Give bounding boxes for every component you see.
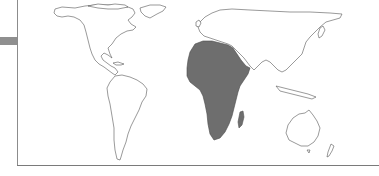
region-new-zealand[interactable] bbox=[327, 144, 334, 157]
region-south-america[interactable] bbox=[107, 75, 147, 160]
world-map bbox=[0, 0, 379, 176]
region-caribbean[interactable] bbox=[113, 62, 124, 65]
region-southeast-asia-islands[interactable] bbox=[276, 86, 316, 99]
region-greenland[interactable] bbox=[140, 5, 166, 18]
region-australia[interactable] bbox=[286, 110, 320, 146]
region-north-america[interactable] bbox=[54, 5, 136, 75]
region-madagascar[interactable] bbox=[238, 111, 244, 128]
region-tasmania[interactable] bbox=[307, 150, 310, 153]
